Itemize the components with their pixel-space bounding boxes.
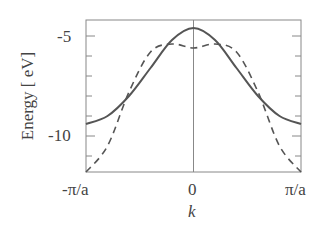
y-tick-label-minus5: -5 bbox=[57, 27, 71, 47]
y-axis-label: Energy [ eV] bbox=[18, 52, 38, 140]
x-axis-label: k bbox=[188, 202, 196, 222]
x-tick-label-zero: 0 bbox=[188, 180, 197, 200]
band-structure-plot bbox=[0, 0, 327, 228]
y-tick-label-minus10: -10 bbox=[48, 126, 71, 146]
x-tick-label-left: -π/a bbox=[62, 180, 89, 200]
x-tick-label-right: π/a bbox=[285, 180, 306, 200]
plot-frame bbox=[86, 20, 301, 172]
